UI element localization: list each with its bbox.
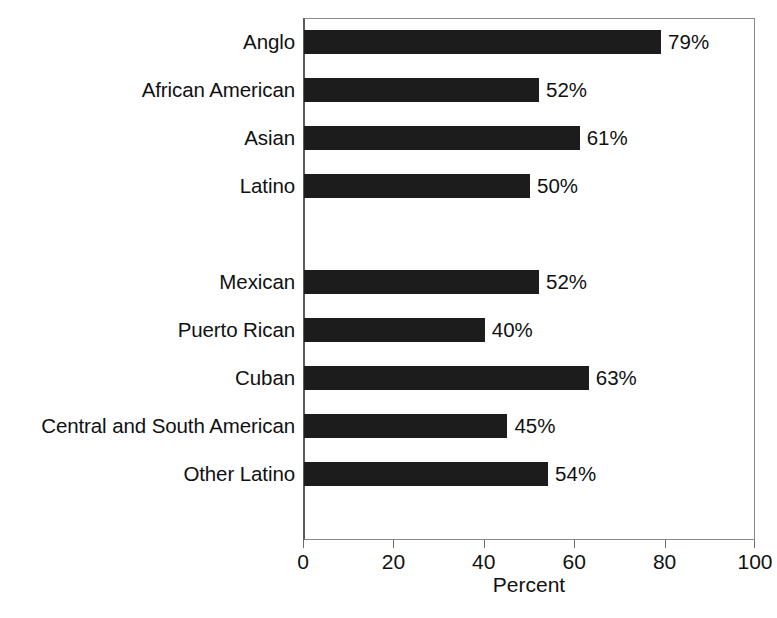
bar bbox=[304, 174, 530, 198]
x-axis-tick-label: 20 bbox=[382, 550, 405, 574]
group-separator-row bbox=[0, 210, 777, 258]
bar bbox=[304, 78, 539, 102]
bar-value-label: 54% bbox=[548, 462, 596, 486]
bar-value-label: 63% bbox=[589, 366, 637, 390]
category-label: Puerto Rican bbox=[178, 306, 295, 354]
x-axis-tick bbox=[393, 540, 394, 548]
bar bbox=[304, 414, 507, 438]
bar-row: Puerto Rican40% bbox=[0, 306, 777, 354]
bar-value-label: 40% bbox=[485, 318, 533, 342]
bar-row: Latino50% bbox=[0, 162, 777, 210]
bar bbox=[304, 318, 485, 342]
category-label: Central and South American bbox=[41, 402, 295, 450]
x-axis-tick-label: 80 bbox=[653, 550, 676, 574]
x-axis-tick-label: 40 bbox=[472, 550, 495, 574]
bar-row: Other Latino54% bbox=[0, 450, 777, 498]
category-label: Anglo bbox=[243, 18, 295, 66]
x-axis-tick bbox=[303, 540, 304, 548]
category-label: African American bbox=[142, 66, 295, 114]
bar-track: 45% bbox=[304, 402, 756, 450]
bar bbox=[304, 462, 548, 486]
bar-value-label: 61% bbox=[580, 126, 628, 150]
x-axis: 020406080100 bbox=[303, 540, 755, 541]
bar-track: 61% bbox=[304, 114, 756, 162]
x-axis-tick bbox=[754, 540, 755, 548]
bar-value-label: 50% bbox=[530, 174, 578, 198]
bar-value-label: 45% bbox=[507, 414, 555, 438]
category-label: Cuban bbox=[235, 354, 295, 402]
category-label: Mexican bbox=[219, 258, 295, 306]
category-label: Other Latino bbox=[183, 450, 295, 498]
x-axis-tick-label: 0 bbox=[297, 550, 309, 574]
x-axis-tick bbox=[574, 540, 575, 548]
bar bbox=[304, 126, 580, 150]
bar-track: 79% bbox=[304, 18, 756, 66]
x-axis-tick-label: 60 bbox=[563, 550, 586, 574]
bar-track: 40% bbox=[304, 306, 756, 354]
bar-row: Cuban63% bbox=[0, 354, 777, 402]
bar-chart-figure: Anglo79%African American52%Asian61%Latin… bbox=[0, 0, 777, 618]
bar-row: Anglo79% bbox=[0, 18, 777, 66]
bar-row: Central and South American45% bbox=[0, 402, 777, 450]
bar-value-label: 52% bbox=[539, 270, 587, 294]
bar-track: 54% bbox=[304, 450, 756, 498]
bar-track: 52% bbox=[304, 66, 756, 114]
bar bbox=[304, 270, 539, 294]
bar-track: 50% bbox=[304, 162, 756, 210]
bar-track: 63% bbox=[304, 354, 756, 402]
x-axis-tick bbox=[665, 540, 666, 548]
category-label: Asian bbox=[244, 114, 295, 162]
x-axis-tick-label: 100 bbox=[737, 550, 772, 574]
bar-track: 52% bbox=[304, 258, 756, 306]
bar-row: Mexican52% bbox=[0, 258, 777, 306]
bar-row: African American52% bbox=[0, 66, 777, 114]
x-axis-tick bbox=[484, 540, 485, 548]
source-note bbox=[14, 604, 444, 616]
bar-value-label: 79% bbox=[661, 30, 709, 54]
bar bbox=[304, 366, 589, 390]
x-axis-title: Percent bbox=[303, 573, 755, 597]
bar-value-label: 52% bbox=[539, 78, 587, 102]
category-label: Latino bbox=[240, 162, 295, 210]
bar bbox=[304, 30, 661, 54]
bar-row: Asian61% bbox=[0, 114, 777, 162]
